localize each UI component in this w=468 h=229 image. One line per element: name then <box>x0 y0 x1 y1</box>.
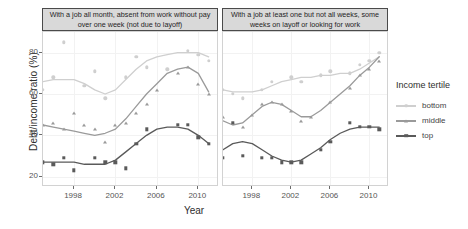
data-point-top <box>197 136 200 139</box>
x-tick-mark <box>114 186 115 189</box>
data-point-middle <box>103 140 107 143</box>
data-point-middle <box>377 59 381 62</box>
data-point-top <box>290 160 293 163</box>
data-point-top <box>319 148 322 151</box>
data-point-top <box>368 125 371 128</box>
data-point-top <box>378 127 381 130</box>
legend-title: Income tertile <box>396 80 468 90</box>
data-point-middle <box>328 101 332 104</box>
data-point-middle <box>82 124 86 127</box>
data-point-middle <box>241 126 245 129</box>
facet-strip-left: With a job all month, absent from work w… <box>42 8 218 31</box>
data-point-middle <box>348 86 352 89</box>
x-tick-label: 2002 <box>277 191 303 200</box>
chart-root: Debt/income ratio (%) With a job all mon… <box>0 0 468 229</box>
data-point-middle <box>196 82 200 85</box>
data-point-middle <box>260 103 264 106</box>
data-point-top <box>299 160 302 163</box>
x-tick-label: 2006 <box>143 191 169 200</box>
x-axis-title: Year <box>0 205 388 216</box>
y-tick-label: 40 <box>14 129 38 138</box>
data-point-top <box>145 127 148 130</box>
facet-strip-right: With a job at least one but not all week… <box>222 8 388 31</box>
y-tick-mark <box>39 93 42 94</box>
smooth-line-bottom <box>223 57 379 92</box>
data-point-top <box>103 160 106 163</box>
data-point-top <box>72 169 75 172</box>
data-point-top <box>270 156 273 159</box>
data-point-middle <box>51 121 55 124</box>
legend-key-icon <box>396 130 416 141</box>
y-tick-label: 20 <box>14 171 38 180</box>
data-point-middle <box>186 66 190 69</box>
data-point-top <box>124 167 127 170</box>
legend-label: top <box>422 131 433 140</box>
y-tick-mark <box>39 52 42 53</box>
data-point-middle <box>72 111 76 114</box>
data-point-middle <box>113 124 117 127</box>
data-point-middle <box>367 68 371 71</box>
x-tick-mark <box>156 186 157 189</box>
data-point-middle <box>222 115 225 118</box>
data-point-top <box>222 156 225 159</box>
data-point-top <box>62 156 65 159</box>
x-tick-label: 2010 <box>355 191 381 200</box>
legend-key-icon <box>396 115 416 126</box>
smooth-line-bottom <box>43 53 209 94</box>
legend-item-top[interactable]: top <box>396 128 468 143</box>
data-point-middle <box>176 72 180 75</box>
legend-label: middle <box>422 116 446 125</box>
data-point-top <box>241 154 244 157</box>
x-tick-label: 1998 <box>238 191 264 200</box>
x-tick-label: 1998 <box>60 191 86 200</box>
data-point-middle <box>62 128 66 131</box>
y-tick-label: 60 <box>14 88 38 97</box>
data-point-top <box>42 160 45 163</box>
data-point-top <box>134 142 137 145</box>
y-tick-mark <box>39 134 42 135</box>
data-point-middle <box>250 113 254 116</box>
y-axis-title: Debt/income ratio (%) <box>28 22 39 182</box>
data-point-top <box>260 156 263 159</box>
data-point-top <box>358 125 361 128</box>
data-point-middle <box>42 124 45 127</box>
data-point-middle <box>289 109 293 112</box>
series-lines <box>223 32 388 186</box>
data-point-middle <box>155 88 159 91</box>
x-tick-mark <box>73 186 74 189</box>
data-point-top <box>207 142 210 145</box>
data-point-middle <box>280 103 284 106</box>
data-point-top <box>231 121 234 124</box>
data-point-middle <box>207 93 211 96</box>
data-point-top <box>176 123 179 126</box>
data-point-top <box>186 123 189 126</box>
legend-label: bottom <box>422 101 446 110</box>
x-tick-label: 2006 <box>316 191 342 200</box>
data-point-middle <box>134 111 138 114</box>
smooth-line-middle <box>223 57 379 125</box>
legend-item-bottom[interactable]: bottom <box>396 98 468 113</box>
data-point-middle <box>299 119 303 122</box>
legend-key-icon <box>396 100 416 111</box>
x-tick-mark <box>290 186 291 189</box>
facet-panel-left <box>42 31 218 186</box>
series-lines <box>43 32 218 186</box>
data-point-middle <box>145 103 149 106</box>
x-tick-mark <box>368 186 369 189</box>
facet-strip-right-label: With a job at least one but not all week… <box>225 10 385 29</box>
x-tick-mark <box>251 186 252 189</box>
x-tick-mark <box>197 186 198 189</box>
smooth-line-top <box>223 127 379 162</box>
data-point-middle <box>124 121 128 124</box>
data-point-top <box>52 163 55 166</box>
x-tick-label: 2002 <box>101 191 127 200</box>
data-point-top <box>280 160 283 163</box>
data-point-top <box>329 140 332 143</box>
y-tick-label: 80 <box>14 47 38 56</box>
x-tick-label: 2010 <box>184 191 210 200</box>
data-point-top <box>348 121 351 124</box>
facet-strip-left-label: With a job all month, absent from work w… <box>45 10 215 29</box>
legend-item-middle[interactable]: middle <box>396 113 468 128</box>
data-point-middle <box>93 128 97 131</box>
data-point-top <box>93 156 96 159</box>
